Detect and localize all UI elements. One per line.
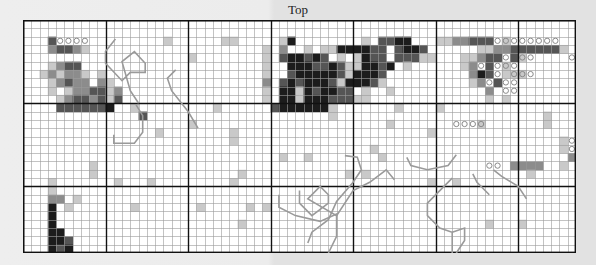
pattern-grid-canvas <box>23 20 576 253</box>
chart-title: Top <box>0 2 596 18</box>
pattern-grid <box>23 20 576 253</box>
